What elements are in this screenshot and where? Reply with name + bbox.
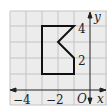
x-tick-label-neg2: −2 xyxy=(46,93,64,107)
y-tick-label-2: 2 xyxy=(78,54,86,68)
coordinate-grid-figure: y x O 4 2 −4 −2 xyxy=(0,0,111,110)
x-tick-label-neg4: −4 xyxy=(13,93,31,107)
origin-label: O xyxy=(77,92,87,106)
x-axis-label: x xyxy=(97,92,104,106)
y-axis-label: y xyxy=(93,10,101,24)
y-tick-label-4: 4 xyxy=(78,22,86,36)
